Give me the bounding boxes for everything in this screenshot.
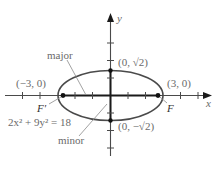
bottom-covertex-point bbox=[108, 118, 112, 122]
focus-left-label: F′ bbox=[36, 102, 47, 114]
bottom-covertex-label: (0, −√2) bbox=[118, 120, 154, 133]
focus-right-point bbox=[156, 93, 161, 98]
left-vertex-label: (−3, 0) bbox=[16, 77, 46, 90]
focus-right-label: F bbox=[166, 102, 174, 114]
top-covertex-point bbox=[108, 68, 112, 72]
x-axis-label: x bbox=[205, 97, 211, 109]
y-axis-arrow-icon bbox=[107, 13, 114, 22]
top-covertex-label: (0, √2) bbox=[118, 56, 148, 69]
major-leader-line bbox=[67, 60, 86, 95]
equation-label: 2x² + 9y² = 18 bbox=[8, 116, 72, 128]
minor-label: minor bbox=[58, 134, 85, 146]
y-axis-label: y bbox=[116, 12, 122, 24]
right-vertex-label: (3, 0) bbox=[167, 77, 191, 90]
ellipse-diagram: y x major (−3, 0) (0, √2) (3, 0) F′ F 2x… bbox=[0, 0, 217, 173]
major-label: major bbox=[47, 49, 73, 61]
focus-left-point bbox=[61, 93, 66, 98]
